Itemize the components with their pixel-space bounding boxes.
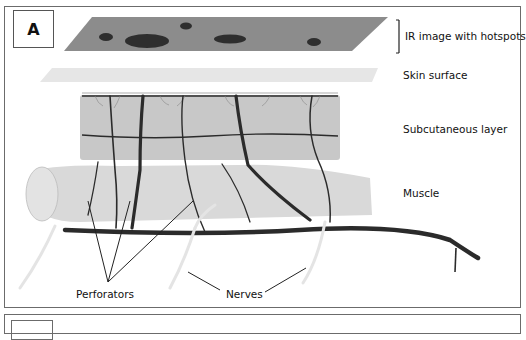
muscle-layer bbox=[30, 165, 372, 222]
figure-panel-b bbox=[4, 314, 521, 334]
label-perforators: Perforators bbox=[76, 288, 134, 300]
skin-surface-layer bbox=[40, 68, 378, 82]
label-subcutaneous-layer: Subcutaneous layer bbox=[403, 123, 507, 135]
label-skin-surface: Skin surface bbox=[403, 69, 467, 81]
panel-label: A bbox=[13, 10, 54, 48]
panel-b-label-box bbox=[11, 320, 53, 340]
hotspot bbox=[214, 35, 246, 44]
label-nerves: Nerves bbox=[226, 288, 263, 300]
hotspot bbox=[180, 23, 192, 30]
ir-image-plate bbox=[64, 17, 388, 51]
hotspot bbox=[125, 34, 169, 48]
hotspot bbox=[307, 38, 321, 46]
label-muscle: Muscle bbox=[403, 187, 439, 199]
label-ir-image: IR image with hotspots bbox=[405, 30, 526, 42]
subcutaneous-layer bbox=[80, 95, 340, 160]
hotspot bbox=[99, 33, 113, 41]
main-vessel bbox=[65, 228, 478, 258]
